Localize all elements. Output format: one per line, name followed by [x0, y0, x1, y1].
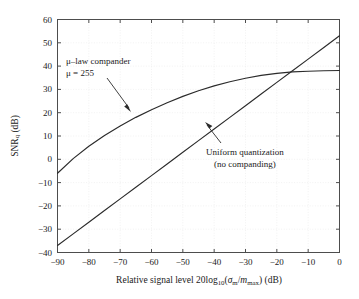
plot-canvas — [0, 0, 359, 299]
y-tick-label: 40 — [24, 62, 52, 71]
y-tick-label: 20 — [24, 108, 52, 117]
x-tick-label: −20 — [270, 258, 284, 267]
annotation-uniform: Uniform quantization (no companding) — [206, 146, 284, 170]
annotation-mu-law-line2: μ = 255 — [66, 67, 131, 79]
y-tick-label: 50 — [24, 38, 52, 47]
x-tick-label: −70 — [113, 258, 127, 267]
y-tick-label: 10 — [24, 132, 52, 141]
annotation-mu-law: μ–law compander μ = 255 — [66, 55, 131, 79]
annotation-uniform-line2: (no companding) — [206, 158, 284, 170]
y-tick-label: −20 — [24, 201, 52, 210]
y-tick-label: 60 — [24, 15, 52, 24]
x-tick-label: −90 — [50, 258, 64, 267]
y-tick-label: −10 — [24, 178, 52, 187]
x-tick-label: −60 — [144, 258, 158, 267]
annotation-mu-law-line1: μ–law compander — [66, 55, 131, 67]
x-axis-title: Relative signal level 20log10(σm/mmax) (… — [116, 276, 282, 286]
chart-figure: −90−80−70−60−50−40−30−20−100 −40−30−20−1… — [0, 0, 359, 299]
x-tick-label: −30 — [238, 258, 252, 267]
y-axis-title: SNRq (dB) — [11, 115, 21, 157]
x-tick-label: −40 — [207, 258, 221, 267]
x-tick-label: −10 — [301, 258, 315, 267]
y-tick-label: 0 — [24, 155, 52, 164]
series-line-mu-law — [58, 71, 340, 174]
x-tick-label: −50 — [176, 258, 190, 267]
x-tick-label: −80 — [82, 258, 96, 267]
annotation-uniform-line1: Uniform quantization — [206, 146, 284, 158]
x-tick-label: 0 — [337, 258, 342, 267]
y-tick-label: −40 — [24, 248, 52, 257]
annotation-arrow-mu-law — [107, 78, 131, 112]
y-tick-label: 30 — [24, 85, 52, 94]
y-tick-label: −30 — [24, 225, 52, 234]
